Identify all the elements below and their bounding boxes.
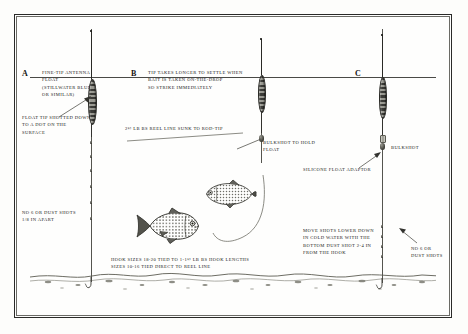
pointer-shots-c [397,227,419,247]
diagram-frame: A FINE-TIP ANTENNA FLOAT (STILLWATER BLU… [14,14,452,318]
rig-b-float-stem [261,111,262,133]
rig-c-hook [375,278,391,294]
note-bulkshot-c: BULKSHOT [391,144,441,151]
rig-c-bulkshot [380,143,385,150]
rig-c-float-stem [382,117,383,135]
rig-a-hook [84,277,100,293]
rig-a-shot-1 [90,141,93,144]
note-bulkshot-b: BULKSHOT TO HOLD FLOAT [263,139,337,154]
rig-a-shot-2 [90,155,93,158]
note-hook-sizes: HOOK SIZES 18-20 TIED TO 1-1½ LB BS HOOK… [111,256,291,271]
section-letter-a: A [22,69,28,78]
rig-c-antenna [382,35,383,77]
rig-c-float-adaptor [380,135,386,143]
section-letter-c: C [355,69,361,78]
fish-swimming [136,209,202,243]
diagram-page: A FINE-TIP ANTENNA FLOAT (STILLWATER BLU… [0,0,468,334]
section-letter-b: B [131,69,137,78]
rig-a-shot-4 [90,185,93,188]
rig-b-float-body [258,75,266,113]
pointer-bulkshot-b [233,137,263,153]
rig-c-float-tip [381,34,383,36]
pointer-float-tip [59,95,95,119]
section-b-caption: TIP TAKES LONGER TO SETTLE WHEN BAIT IS … [148,69,308,91]
rig-a-float-tip [90,30,92,32]
note-shots-a: NO 6 OR DUST SHOTS 1/8 IN APART [22,209,112,224]
rig-a-shot-5 [90,201,93,204]
fish-taking-bait [204,181,256,209]
pointer-adaptor [359,151,385,171]
note-shots-c: NO 6 OR DUST SHOTS [411,245,455,260]
rig-a-float-stem [91,123,92,137]
rig-a-shot-3 [90,169,93,172]
rig-b-antenna [261,39,262,75]
rig-b-float-tip [260,38,262,40]
note-cold-water: MOVE SHOTS LOWER DOWN IN COLD WATER WITH… [303,227,399,257]
rig-a-antenna [91,31,92,79]
rig-c-float-body [379,77,387,119]
